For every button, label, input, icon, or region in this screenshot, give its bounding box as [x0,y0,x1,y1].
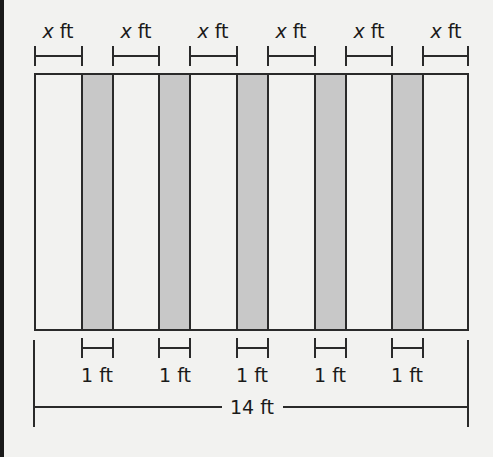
bottom-labels: 1 ft 1 ft 1 ft 1 ft 1 ft [81,364,423,386]
garden-strip-diagram: x ft x ft x ft x ft x ft x ft 1 ft 1 ft … [0,0,493,457]
shaded-strip [315,74,346,330]
bottom-label: 1 ft [314,364,346,386]
bottom-label: 1 ft [81,364,113,386]
shaded-strip [159,74,190,330]
top-labels: x ft x ft x ft x ft x ft x ft [41,20,461,42]
top-label: x ft [274,20,306,42]
shaded-strip [392,74,423,330]
total-width-label: 14 ft [230,396,274,418]
shaded-strip [237,74,268,330]
shaded-strips [82,74,423,330]
shaded-strip [82,74,113,330]
bottom-label: 1 ft [159,364,191,386]
top-label: x ft [429,20,461,42]
bottom-label: 1 ft [236,364,268,386]
top-dimension-markers [35,46,468,66]
bottom-label: 1 ft [391,364,423,386]
top-label: x ft [119,20,151,42]
top-label: x ft [196,20,228,42]
top-label: x ft [41,20,73,42]
top-label: x ft [352,20,384,42]
bottom-dimension-markers [82,338,423,358]
